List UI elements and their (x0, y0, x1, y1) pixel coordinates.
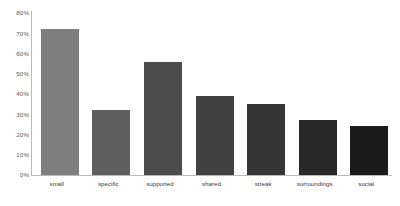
y-axis-tick-label: 30% (0, 111, 29, 118)
x-axis-tick-label: surroundings (289, 180, 341, 188)
x-axis-tick-label: supported (134, 180, 186, 188)
y-axis-tick-label: 50% (0, 70, 29, 77)
bar[interactable] (196, 96, 234, 175)
bar[interactable] (41, 29, 79, 175)
bar[interactable] (299, 120, 337, 175)
y-axis-tick-label: 20% (0, 131, 29, 138)
x-axis-tick-label: social (340, 180, 392, 188)
x-axis-line (31, 175, 392, 176)
x-axis-tick-label: streak (237, 180, 289, 188)
bar-series (31, 13, 392, 175)
y-axis-tick-label: 0% (0, 171, 29, 178)
bar[interactable] (350, 126, 388, 175)
bar[interactable] (92, 110, 130, 175)
y-axis-tick-label: 80% (0, 9, 29, 16)
x-axis-tick-label: small (31, 180, 83, 188)
bar[interactable] (144, 62, 182, 175)
y-axis-tick-label: 70% (0, 30, 29, 37)
y-axis-tick-label: 60% (0, 50, 29, 57)
bar-chart: 0%10%20%30%40%50%60%70%80% smallspecific… (0, 0, 400, 206)
y-axis-tick-label: 10% (0, 151, 29, 158)
y-axis-tick-label: 40% (0, 90, 29, 97)
bar[interactable] (247, 104, 285, 175)
x-axis-tick-label: specific (83, 180, 135, 188)
x-axis-tick-label: shared (186, 180, 238, 188)
